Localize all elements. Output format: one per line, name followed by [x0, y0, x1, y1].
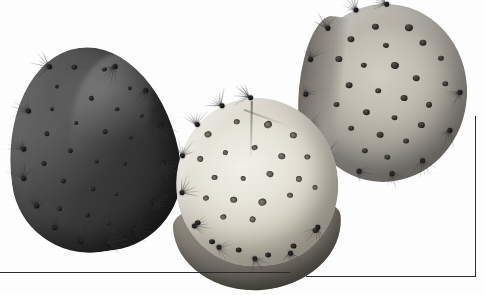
areole: [265, 252, 271, 257]
areole: [115, 106, 121, 111]
right-rule: [475, 116, 476, 277]
areole: [127, 86, 132, 91]
areole: [195, 220, 201, 225]
bottom-rule-right: [306, 276, 476, 277]
areole: [94, 159, 99, 164]
cactus-pads-plate: [0, 0, 484, 295]
areole: [362, 109, 370, 116]
areole: [417, 122, 425, 129]
areole: [412, 75, 420, 82]
areole: [361, 62, 367, 68]
areole: [345, 82, 353, 89]
areole: [402, 138, 408, 144]
specimen-pad-pale: [170, 93, 343, 272]
areole: [347, 35, 355, 42]
bottom-rule-left: [0, 272, 290, 273]
areole: [74, 121, 79, 126]
specimen-pad-dark: [0, 36, 191, 263]
areole-pit: [211, 175, 217, 181]
areole: [404, 24, 413, 32]
areole: [347, 125, 353, 131]
areole: [384, 154, 390, 160]
areole-pit: [289, 132, 296, 138]
areole: [335, 56, 343, 63]
areole: [140, 113, 145, 118]
